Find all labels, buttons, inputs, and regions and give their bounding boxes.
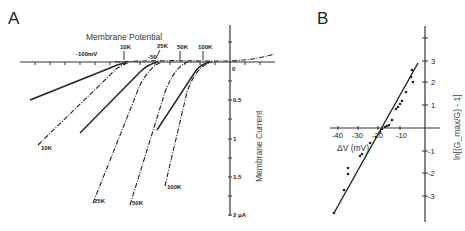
b-y-tick-3: 3 [431,57,435,66]
b-y-tick-minus2: -2 [428,169,435,178]
leak-curve [30,63,125,100]
curve-solid-3 [157,62,210,130]
panel-a-x-title: Membrane Potential [86,32,162,42]
panel-b-x-title: ΔV (mV) [337,143,369,153]
panel-b-y-title: ln[(G_max/G) - 1] [452,94,462,160]
curve-100k [165,62,212,186]
b-x-tick-minus30: -30 [352,131,363,140]
b-x-tick-minus40: -40 [332,131,343,140]
top-label-100k: 100K [198,44,213,50]
tick-label-minus50: -50 [148,54,157,60]
b-y-tick-minus3: -3 [428,192,435,201]
y-tick-1: 1 [233,136,237,142]
tick-label-minus100mv: -100mV [76,51,97,57]
top-label-25k: 25K [157,43,169,49]
figure-canvas: A Membrane Potential -100mV -50 0 [0,0,465,231]
panel-a-label: A [8,9,20,28]
bottom-label-50k: 50K [132,200,144,206]
panel-a: A Membrane Potential -100mV -50 0 [8,9,275,218]
tick-label-zero: 0 [232,66,236,72]
b-x-tick-minus10: -10 [396,131,407,140]
y-tick-2ua: 2 μA [233,212,247,218]
b-y-tick-1: 1 [431,101,435,110]
curve-10k [38,63,128,145]
outward-curve [115,54,274,62]
curve-mid-solid [80,62,158,133]
b-y-tick-minus1: -1 [428,147,435,156]
top-label-50k: 50K [177,44,189,50]
b-y-tick-2: 2 [431,78,435,87]
panel-a-curves [30,54,274,205]
curve-25k [93,62,162,203]
panel-b: B 3 2 1 -1 -2 -3 ln[(G_max/G) - 1] -40 -… [317,9,462,222]
bottom-label-100k: 100K [167,184,182,190]
y-tick-1-5: 1.5 [233,174,242,180]
panel-b-label: B [317,9,328,28]
panel-a-y-title: Membrane Current [254,110,264,182]
bottom-label-25k: 25K [94,198,106,204]
bottom-label-10k: 10K [41,145,53,151]
y-tick-0-5: 0.5 [233,97,242,103]
top-label-10k: 10K [120,44,132,50]
